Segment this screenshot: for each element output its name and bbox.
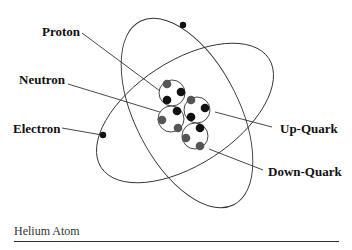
- up-quark-leader-line: [215, 112, 272, 127]
- caption-rule: [14, 241, 339, 242]
- down-quark-label: Down-Quark: [268, 164, 342, 180]
- down-quark: [158, 116, 167, 125]
- down-quark: [182, 134, 191, 143]
- up-quark: [201, 104, 210, 113]
- down-quark: [174, 124, 183, 133]
- down-quark: [187, 96, 196, 105]
- neutron-label: Neutron: [19, 72, 65, 88]
- electron-top: [180, 22, 186, 28]
- up-quark: [163, 96, 172, 105]
- down-quark: [196, 142, 205, 151]
- electron-left: [100, 132, 106, 138]
- up-quark: [187, 113, 196, 122]
- down-quark-leader-line: [209, 149, 263, 170]
- down-quark: [163, 80, 172, 89]
- proton-label: Proton: [42, 24, 80, 40]
- up-quark-label: Up-Quark: [280, 121, 338, 137]
- electron-leader-line: [62, 128, 102, 135]
- up-quark: [196, 124, 205, 133]
- neutron-leader-line: [68, 84, 163, 113]
- up-quark: [173, 107, 182, 116]
- electron-label: Electron: [13, 121, 60, 137]
- up-quark: [177, 88, 186, 97]
- figure-caption: Helium Atom: [14, 224, 80, 239]
- proton-leader-line: [82, 33, 160, 91]
- nucleus: [158, 80, 210, 151]
